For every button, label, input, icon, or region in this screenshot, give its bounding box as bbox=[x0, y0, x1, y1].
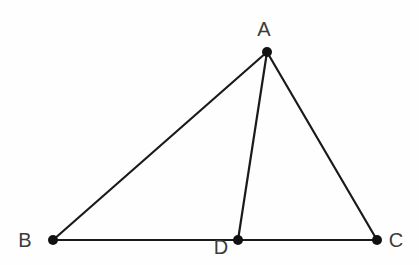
geometry-figure: ABCD bbox=[0, 0, 419, 265]
vertex-point-d bbox=[233, 235, 243, 245]
segment-ac bbox=[267, 52, 377, 240]
vertex-label-c: C bbox=[389, 230, 404, 250]
segment-ad bbox=[238, 52, 267, 240]
vertex-point-a bbox=[262, 47, 272, 57]
vertex-label-a: A bbox=[257, 19, 271, 39]
segments-group bbox=[53, 52, 377, 240]
vertex-label-b: B bbox=[18, 230, 32, 250]
points-group bbox=[48, 47, 382, 245]
vertex-point-c bbox=[372, 235, 382, 245]
geometry-canvas bbox=[0, 0, 419, 265]
vertex-point-b bbox=[48, 235, 58, 245]
vertex-label-d: D bbox=[214, 237, 229, 257]
segment-ab bbox=[53, 52, 267, 240]
